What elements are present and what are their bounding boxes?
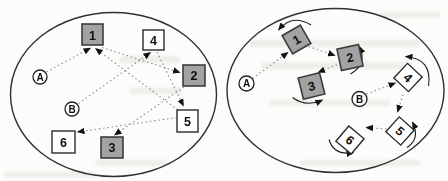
left-arrow-2-to-3: [115, 87, 185, 135]
right-arrow-5-to-6: [366, 128, 387, 130]
left-box-5: 5: [177, 110, 198, 132]
left-box-3: 3: [101, 137, 123, 158]
left-box-2: 2: [183, 65, 205, 86]
right-arrow-1-to-2: [309, 47, 336, 56]
right-agent-a: A: [239, 76, 254, 91]
left-box-5-label: 5: [184, 115, 191, 129]
right-box-1: 1: [282, 25, 311, 54]
right-box-3: 3: [298, 73, 325, 100]
left-box-6-label: 6: [60, 136, 67, 150]
right-box-2: 2: [337, 44, 363, 70]
right-box-6: 6: [336, 126, 364, 154]
left-box-4: 4: [143, 30, 164, 50]
left-arrow-5-to-6: [78, 118, 178, 133]
right-agent-a-label: A: [243, 78, 250, 89]
left-box-1-label: 1: [89, 29, 96, 43]
diagram-canvas: 1 4 2 5 6 3 A B: [0, 0, 448, 181]
left-agent-b-label: B: [68, 104, 75, 115]
left-box-3-label: 3: [109, 141, 116, 155]
left-box-2-label: 2: [191, 69, 198, 83]
right-agent-b: B: [352, 92, 367, 107]
right-agent-b-label: B: [356, 94, 363, 105]
left-box-1: 1: [82, 24, 103, 45]
left-box-6: 6: [52, 131, 75, 153]
right-arrow-b-to-4: [367, 83, 396, 94]
left-diagram: 1 4 2 5 6 3 A B: [11, 13, 217, 177]
left-agent-a: A: [33, 70, 47, 84]
left-arrow-a-to-1: [47, 48, 91, 72]
right-box-5: 5: [386, 117, 414, 145]
right-diagram: 1 2 3 4 5 6 A B: [227, 9, 444, 173]
right-ellipse-boundary: [227, 9, 444, 173]
left-box-4-label: 4: [150, 34, 157, 48]
right-arrow-4-to-5: [398, 95, 404, 113]
figure-two-ellipse-diagram: 1 4 2 5 6 3 A B: [0, 0, 448, 181]
left-agent-a-label: A: [36, 72, 43, 83]
left-agent-b: B: [65, 102, 79, 116]
